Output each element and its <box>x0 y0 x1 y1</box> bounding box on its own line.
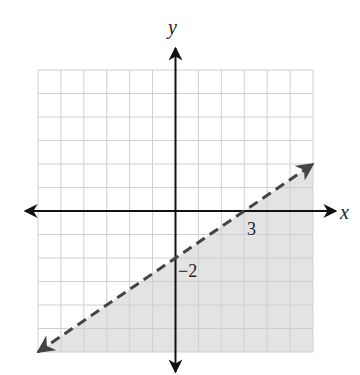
y-intercept-label: −2 <box>178 261 197 281</box>
y-axis-label: y <box>166 16 177 39</box>
x-intercept-label: 3 <box>247 219 256 239</box>
x-axis-label: x <box>339 201 349 223</box>
graph-canvas: y x 3 −2 <box>0 0 360 375</box>
